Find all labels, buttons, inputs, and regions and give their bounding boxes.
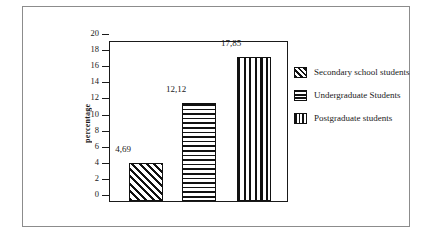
y-axis-tick-mark [102,163,109,164]
y-axis-tick-mark [102,82,109,83]
y-axis-tick-mark [102,34,109,35]
y-axis-tick-label: 0 [95,189,99,200]
legend-swatch-icon [294,113,307,124]
bar-value-label: 17,85 [205,38,257,49]
legend-item-label: Secondary school students [314,67,409,78]
y-axis-tick-label: 8 [95,125,99,136]
legend-swatch-icon [294,67,307,78]
y-axis-tick-label: 4 [95,157,99,168]
y-axis-tick-label: 12 [91,92,100,103]
bar-value-label: 4,69 [97,144,149,155]
y-axis-tick-mark [102,50,109,51]
y-axis-tick-mark [102,115,109,116]
y-axis-tick-mark [102,195,109,196]
bar [182,103,216,201]
y-axis-tick-label: 14 [91,76,100,87]
y-axis-tick-label: 16 [91,60,100,71]
plot-area [109,41,288,202]
legend-swatch-icon [294,90,307,101]
figure-border: percentage 02468101214161820 4,6912,1217… [22,6,410,227]
y-axis-tick-mark [102,66,109,67]
bar-value-label: 12,12 [150,84,202,95]
legend-item: Postgraduate students [294,107,428,130]
bar [129,163,163,201]
y-axis-tick-label: 18 [91,44,100,55]
y-axis-tick-label: 10 [91,109,100,120]
legend-item-label: Undergraduate Students [314,90,401,101]
chart-legend: Secondary school studentsUndergraduate S… [294,61,428,130]
legend-item: Secondary school students [294,61,428,84]
y-axis-tick-label: 20 [91,28,100,39]
y-axis-tick-mark [102,131,109,132]
bar [237,57,271,201]
y-axis-tick-mark [102,179,109,180]
legend-item-label: Postgraduate students [314,113,392,124]
legend-item: Undergraduate Students [294,84,428,107]
y-axis-tick-label: 2 [95,173,99,184]
y-axis-tick-mark [102,98,109,99]
